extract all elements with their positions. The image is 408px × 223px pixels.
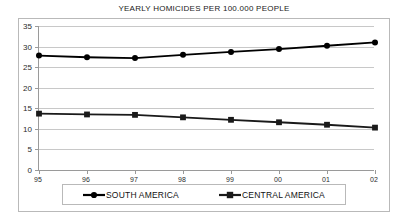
x-tick-mark	[87, 170, 88, 174]
chart-container: YEARLY HOMICIDES PER 100.000 PEOPLE 0510…	[0, 0, 408, 223]
y-tick-label: 10	[8, 124, 32, 133]
circle-marker	[36, 53, 42, 59]
x-tick-mark	[135, 170, 136, 174]
series-layer	[39, 26, 375, 170]
y-tick-label: 30	[8, 42, 32, 51]
y-tick-label: 5	[8, 145, 32, 154]
gridline	[39, 170, 374, 171]
x-tick-label: 99	[226, 176, 234, 183]
x-tick-label: 02	[370, 176, 378, 183]
x-tick-label: 95	[34, 176, 42, 183]
square-marker	[324, 122, 330, 128]
circle-marker	[180, 52, 186, 58]
x-tick-label: 98	[178, 176, 186, 183]
x-tick-mark	[39, 170, 40, 174]
chart-legend: SOUTH AMERICA CENTRAL AMERICA	[62, 184, 346, 205]
square-marker	[180, 114, 186, 120]
x-tick-mark	[183, 170, 184, 174]
chart-title: YEARLY HOMICIDES PER 100.000 PEOPLE	[0, 4, 408, 13]
square-marker	[276, 119, 282, 125]
plot-area: 05101520253035 9596979899000102	[38, 26, 374, 170]
y-tick-label: 20	[8, 83, 32, 92]
circle-marker	[132, 55, 138, 61]
circle-marker-icon	[83, 190, 105, 200]
x-tick-mark	[327, 170, 328, 174]
y-tick-label: 35	[8, 22, 32, 31]
circle-marker	[228, 49, 234, 55]
circle-marker	[372, 39, 378, 45]
plot-inner	[38, 26, 374, 170]
y-tick-label: 0	[8, 166, 32, 175]
x-tick-mark	[231, 170, 232, 174]
x-tick-mark	[279, 170, 280, 174]
x-tick-mark	[375, 170, 376, 174]
legend-label-south-america: SOUTH AMERICA	[106, 190, 179, 200]
y-tick-label: 15	[8, 104, 32, 113]
x-tick-label: 96	[82, 176, 90, 183]
legend-item-south-america: SOUTH AMERICA	[83, 190, 179, 200]
square-marker	[132, 112, 138, 118]
circle-marker	[84, 54, 90, 60]
y-tick-label: 25	[8, 63, 32, 72]
legend-label-central-america: CENTRAL AMERICA	[242, 190, 325, 200]
square-marker	[36, 111, 42, 117]
square-marker	[228, 117, 234, 123]
circle-marker	[324, 43, 330, 49]
legend-item-central-america: CENTRAL AMERICA	[219, 190, 325, 200]
x-tick-label: 97	[130, 176, 138, 183]
circle-marker	[276, 46, 282, 52]
square-marker-icon	[219, 190, 241, 200]
x-tick-label: 01	[322, 176, 330, 183]
x-tick-label: 00	[274, 176, 282, 183]
square-marker	[84, 112, 90, 118]
square-marker	[372, 125, 378, 131]
